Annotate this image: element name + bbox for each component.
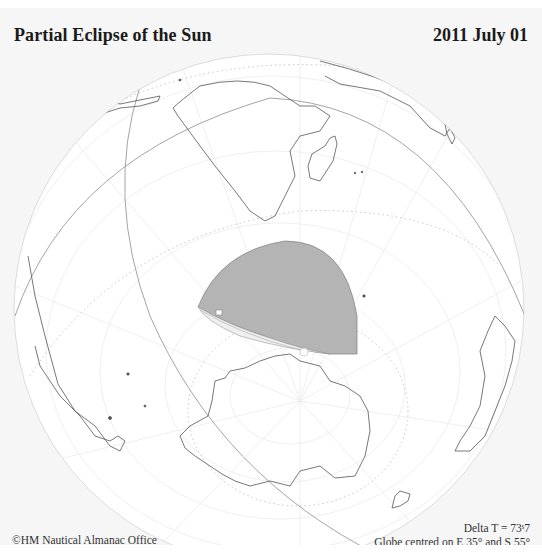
page-title: Partial Eclipse of the Sun <box>14 25 212 46</box>
eclipse-date: 2011 July 01 <box>433 25 528 46</box>
delta-t-label: Delta T = 73ˢ7 <box>464 522 530 534</box>
map-frame: Partial Eclipse of the Sun 2011 July 01 … <box>0 8 542 545</box>
globe-map <box>0 8 542 545</box>
globe-centre-label: Globe centred on E 35° and S 55° <box>374 536 530 545</box>
sunset-point-marker <box>300 348 308 356</box>
maximum-eclipse-marker <box>216 310 222 315</box>
copyright-notice: ©HM Nautical Almanac Office <box>12 534 157 545</box>
